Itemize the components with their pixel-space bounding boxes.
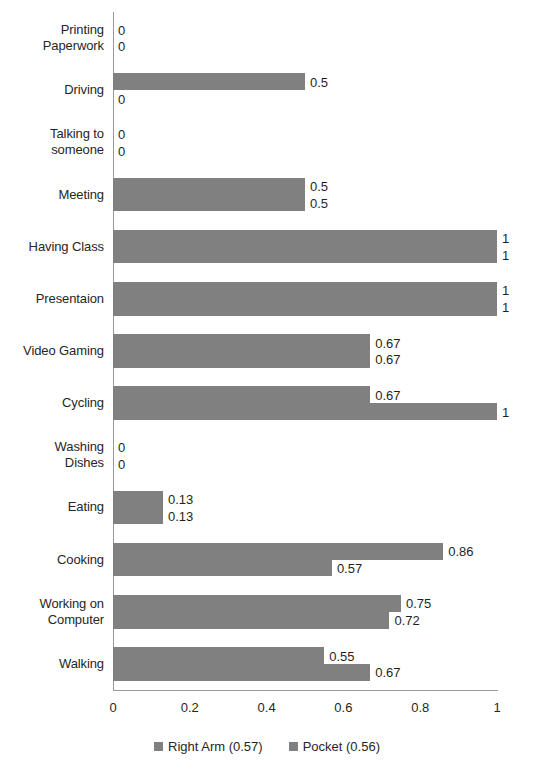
chart-category-row: Video Gaming0.670.67 xyxy=(0,325,534,377)
category-label-line: Eating xyxy=(0,499,104,515)
bar-track: 1 xyxy=(113,299,497,316)
bar-value-label: 1 xyxy=(502,405,509,418)
bar-value-label: 0.75 xyxy=(406,597,431,610)
chart-legend: Right Arm (0.57)Pocket (0.56) xyxy=(0,739,534,754)
bar-value-label: 1 xyxy=(502,232,509,245)
x-tick-label: 0.4 xyxy=(258,700,276,716)
bar-track: 1 xyxy=(113,282,497,299)
category-label-line: Cycling xyxy=(0,395,104,411)
bar-track: 0.5 xyxy=(113,178,497,195)
bar-track: 0.72 xyxy=(113,612,497,629)
bar-value-label: 0.5 xyxy=(310,196,328,209)
category-axis-label: Walking xyxy=(0,656,104,672)
bar-track: 1 xyxy=(113,230,497,247)
bar-value-label: 0.67 xyxy=(375,388,400,401)
bar-right-arm xyxy=(113,282,497,299)
category-axis-label: PrintingPaperwork xyxy=(0,22,104,54)
bar-pocket xyxy=(113,195,305,212)
category-axis-label: Talking tosomeone xyxy=(0,126,104,158)
bar-value-label: 0 xyxy=(118,457,125,470)
bar-value-label: 0.57 xyxy=(337,562,362,575)
category-label-line: Cooking xyxy=(0,552,104,568)
bar-right-arm xyxy=(113,178,305,195)
bar-right-arm xyxy=(113,334,370,351)
category-axis-label: Meeting xyxy=(0,187,104,203)
chart-category-row: Cooking0.860.57 xyxy=(0,534,534,586)
bar-pocket xyxy=(113,351,370,368)
category-label-line: Dishes xyxy=(0,455,104,471)
bar-chart: 00.20.40.60.81 Right Arm (0.57)Pocket (0… xyxy=(0,0,534,773)
chart-category-row: PrintingPaperwork00 xyxy=(0,12,534,64)
bar-value-label: 0 xyxy=(118,92,125,105)
bar-value-label: 0 xyxy=(118,40,125,53)
bar-track: 0 xyxy=(113,90,497,107)
category-label-line: Meeting xyxy=(0,187,104,203)
bar-value-label: 0.67 xyxy=(375,336,400,349)
bar-track: 0.5 xyxy=(113,73,497,90)
bar-value-label: 1 xyxy=(502,301,509,314)
legend-swatch-icon xyxy=(154,742,163,751)
bar-value-label: 0.72 xyxy=(394,614,419,627)
chart-category-row: Driving0.50 xyxy=(0,64,534,116)
bar-right-arm xyxy=(113,647,324,664)
chart-category-row: Cycling0.671 xyxy=(0,377,534,429)
bar-pocket xyxy=(113,299,497,316)
bar-track: 0.5 xyxy=(113,195,497,212)
x-axis-tick-labels: 00.20.40.60.81 xyxy=(0,700,534,722)
category-label-line: someone xyxy=(0,142,104,158)
chart-category-row: Working onComputer0.750.72 xyxy=(0,586,534,638)
category-label-line: Walking xyxy=(0,656,104,672)
bar-track: 0.75 xyxy=(113,595,497,612)
legend-label: Pocket (0.56) xyxy=(303,739,380,754)
bar-value-label: 0.13 xyxy=(168,509,193,522)
legend-item[interactable]: Right Arm (0.57) xyxy=(154,739,263,754)
bar-pocket xyxy=(113,507,163,524)
chart-category-row: Talking tosomeone00 xyxy=(0,116,534,168)
bar-right-arm xyxy=(113,543,443,560)
chart-category-row: Eating0.130.13 xyxy=(0,481,534,533)
category-axis-label: Driving xyxy=(0,82,104,98)
bar-value-label: 0.55 xyxy=(329,649,354,662)
bar-value-label: 0.86 xyxy=(448,545,473,558)
bar-value-label: 0.5 xyxy=(310,75,328,88)
chart-category-row: Presentaion11 xyxy=(0,273,534,325)
category-label-line: Printing xyxy=(0,22,104,38)
category-label-line: Computer xyxy=(0,612,104,628)
x-tick-label: 0 xyxy=(109,700,116,716)
x-tick-label: 0.2 xyxy=(181,700,199,716)
bar-right-arm xyxy=(113,230,497,247)
category-axis-label: Presentaion xyxy=(0,291,104,307)
category-label-line: Washing xyxy=(0,439,104,455)
bar-track: 0.86 xyxy=(113,543,497,560)
bar-value-label: 0 xyxy=(118,440,125,453)
x-tick-label: 0.8 xyxy=(411,700,429,716)
bar-track: 0.67 xyxy=(113,351,497,368)
bar-pocket xyxy=(113,403,497,420)
chart-category-row: Meeting0.50.5 xyxy=(0,168,534,220)
category-axis-label: Cycling xyxy=(0,395,104,411)
category-label-line: Paperwork xyxy=(0,38,104,54)
bar-value-label: 0.13 xyxy=(168,493,193,506)
bar-right-arm xyxy=(113,491,163,508)
category-label-line: Working on xyxy=(0,596,104,612)
bar-track: 0.55 xyxy=(113,647,497,664)
legend-item[interactable]: Pocket (0.56) xyxy=(289,739,380,754)
bar-track: 0.57 xyxy=(113,560,497,577)
bar-value-label: 0.67 xyxy=(375,353,400,366)
category-axis-label: Working onComputer xyxy=(0,596,104,628)
category-axis-label: Eating xyxy=(0,499,104,515)
x-axis-line xyxy=(113,690,498,691)
x-tick-label: 0.6 xyxy=(334,700,352,716)
bar-pocket xyxy=(113,247,497,264)
bar-pocket xyxy=(113,560,332,577)
legend-swatch-icon xyxy=(289,742,298,751)
bar-value-label: 0 xyxy=(118,23,125,36)
bar-track: 1 xyxy=(113,247,497,264)
bar-track: 0.67 xyxy=(113,334,497,351)
category-axis-label: Cooking xyxy=(0,552,104,568)
bar-value-label: 0 xyxy=(118,144,125,157)
bar-value-label: 0 xyxy=(118,127,125,140)
bar-track: 0 xyxy=(113,455,497,472)
bar-value-label: 0.5 xyxy=(310,180,328,193)
bar-track: 0.67 xyxy=(113,386,497,403)
